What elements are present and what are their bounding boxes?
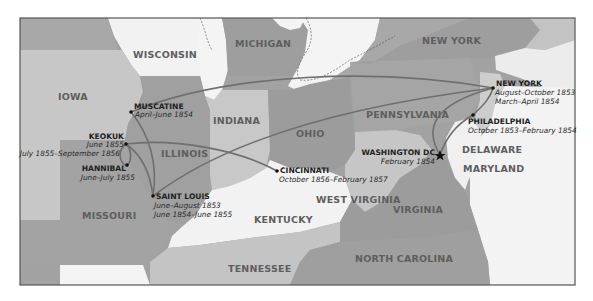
- city-name-hannibal: HANNIBAL: [82, 164, 126, 173]
- state-label-wisconsin: WISCONSIN: [133, 49, 197, 60]
- travel-map: WISCONSIN MICHIGAN NEW YORK IOWA INDIANA…: [0, 0, 593, 301]
- city-dot-icon: [151, 194, 155, 198]
- state-label-delaware: DELAWARE: [462, 144, 522, 155]
- state-label-maryland: MARYLAND: [463, 163, 524, 174]
- city-date-hannibal: June–July 1855: [79, 173, 136, 182]
- region-arkansas: [60, 265, 150, 285]
- city-dot-icon: [275, 169, 279, 173]
- city-name-cincinnati: CINCINNATI: [280, 166, 329, 175]
- state-label-indiana: INDIANA: [213, 115, 260, 126]
- state-label-kentucky: KENTUCKY: [254, 214, 313, 225]
- city-date-muscatine: April–June 1854: [134, 110, 193, 119]
- city-name-philadelphia: PHILADELPHIA: [468, 117, 531, 126]
- city-date-philadelphia: October 1853–February 1854: [468, 126, 577, 135]
- city-date-saint-louis-2: June 1854–June 1855: [152, 210, 232, 219]
- state-label-west-virginia: WEST VIRGINIA: [316, 194, 401, 205]
- city-date-new-york-2: March–April 1854: [495, 97, 560, 106]
- city-dot-icon: [124, 142, 128, 146]
- state-label-pennsylvania: PENNSYLVANIA: [366, 109, 450, 120]
- state-label-virginia: VIRGINIA: [393, 204, 443, 215]
- city-date-saint-louis-1: June–August 1853: [152, 201, 221, 210]
- city-date-keokuk-2: July 1855–September 1856: [18, 149, 120, 158]
- state-label-michigan: MICHIGAN: [235, 38, 291, 49]
- city-name-new-york: NEW YORK: [496, 79, 543, 88]
- state-label-iowa: IOWA: [58, 91, 88, 102]
- state-label-north-carolina: NORTH CAROLINA: [355, 253, 454, 264]
- state-label-missouri: MISSOURI: [82, 210, 137, 221]
- city-name-washington-dc: WASHINGTON DC: [361, 148, 435, 157]
- state-label-new-york: NEW YORK: [422, 35, 482, 46]
- city-date-cincinnati: October 1856–February 1857: [279, 175, 388, 184]
- region-minnesota: [20, 18, 118, 50]
- city-date-new-york-1: August–October 1853: [494, 88, 576, 97]
- map-canvas: WISCONSIN MICHIGAN NEW YORK IOWA INDIANA…: [0, 0, 593, 301]
- city-name-saint-louis: SAINT LOUIS: [156, 192, 210, 201]
- city-dot-icon: [129, 110, 133, 114]
- state-label-ohio: OHIO: [296, 128, 324, 139]
- state-label-illinois: ILLINOIS: [161, 148, 208, 159]
- city-date-washington-dc: February 1854: [381, 157, 436, 166]
- state-label-tennessee: TENNESSEE: [228, 263, 291, 274]
- city-date-keokuk-1: June 1855: [85, 140, 125, 149]
- region-ohio: [268, 78, 355, 172]
